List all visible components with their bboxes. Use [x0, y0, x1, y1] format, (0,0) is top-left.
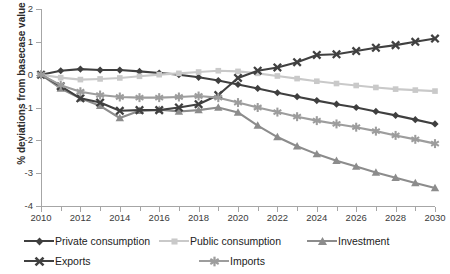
asterisk-marker [210, 256, 218, 266]
diamond-marker [36, 237, 44, 245]
diamond-marker [333, 101, 340, 108]
legend-item-investment[interactable]: Investment [307, 231, 389, 250]
legend-label: Imports [230, 255, 265, 267]
legend-row: ExportsImports [24, 251, 436, 270]
square-marker [412, 87, 418, 93]
square-marker [294, 76, 300, 82]
x-marker [36, 257, 44, 265]
legend-item-private-consumption[interactable]: Private consumption [24, 231, 150, 250]
square-marker [432, 88, 438, 94]
square-marker [334, 81, 340, 87]
square-marker [156, 72, 162, 78]
diamond-marker [313, 97, 320, 104]
legend-item-imports[interactable]: Imports [199, 251, 265, 270]
square-marker [196, 69, 202, 75]
triangle-icon [307, 234, 337, 248]
square-marker [58, 75, 64, 81]
square-icon [159, 234, 189, 248]
diamond-marker [392, 112, 399, 119]
square-marker [235, 69, 241, 75]
asterisk-icon [199, 254, 229, 268]
square-marker [215, 68, 221, 74]
triangle-marker [318, 236, 327, 244]
square-marker [78, 77, 84, 83]
legend-label: Private consumption [55, 235, 150, 247]
square-marker [353, 83, 359, 89]
diamond-icon [24, 234, 54, 248]
diamond-marker [97, 66, 104, 73]
square-marker [393, 86, 399, 92]
square-marker [176, 71, 182, 77]
diamond-marker [274, 89, 281, 96]
legend-row: Private consumptionPublic consumptionInv… [24, 231, 436, 250]
legend-label: Investment [338, 235, 389, 247]
series-public-consumption [38, 68, 438, 94]
chart-legend: Private consumptionPublic consumptionInv… [24, 231, 436, 273]
square-marker [314, 78, 320, 84]
diamond-marker [215, 77, 222, 84]
diamond-marker [372, 108, 379, 115]
legend-item-public-consumption[interactable]: Public consumption [159, 231, 281, 250]
legend-label: Exports [55, 255, 91, 267]
legend-label: Public consumption [190, 235, 281, 247]
x-icon [24, 254, 54, 268]
diamond-marker [431, 120, 438, 127]
diamond-marker [412, 116, 419, 123]
diamond-marker [294, 93, 301, 100]
square-marker [137, 74, 143, 80]
diamond-marker [77, 65, 84, 72]
diamond-marker [254, 85, 261, 92]
square-marker [373, 85, 379, 91]
legend-item-exports[interactable]: Exports [24, 251, 91, 270]
square-marker [117, 75, 123, 81]
square-marker [275, 73, 281, 79]
diamond-marker [57, 67, 64, 74]
square-marker [171, 238, 177, 244]
square-marker [97, 76, 103, 82]
diamond-marker [116, 66, 123, 73]
diamond-marker [353, 104, 360, 111]
